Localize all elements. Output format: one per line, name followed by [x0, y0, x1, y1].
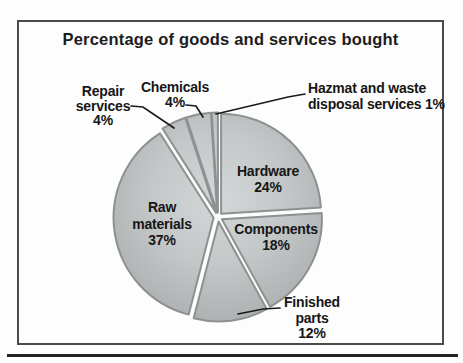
- slice-label-finished-parts: Finishedparts12%: [284, 294, 340, 341]
- bottom-rule: [7, 354, 458, 357]
- slice-label-hazmat-and-waste-disposal-services: Hazmat and wastedisposal services 1%: [308, 80, 446, 112]
- leader-line-hazmat-and-waste-disposal-services: [216, 94, 305, 114]
- slice-label-chemicals: Chemicals4%: [141, 79, 210, 110]
- slice-label-repair-services: Repairservices4%: [76, 83, 131, 128]
- pie-chart: Hardware24%Components18%Finishedparts12%…: [0, 0, 463, 363]
- figure-canvas: Percentage of goods and services bought …: [0, 0, 463, 363]
